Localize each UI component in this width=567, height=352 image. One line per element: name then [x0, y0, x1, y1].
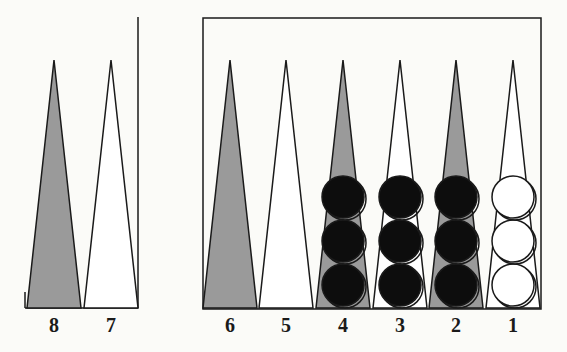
point-label: 2 [441, 314, 471, 337]
point-label: 6 [215, 314, 245, 337]
point-5 [259, 60, 313, 308]
point-8 [27, 60, 81, 308]
point-7 [84, 60, 138, 308]
point-6 [203, 60, 257, 308]
point-label: 3 [385, 314, 415, 337]
point-label: 4 [328, 314, 358, 337]
point-label: 8 [39, 314, 69, 337]
backgammon-board-diagram [0, 0, 567, 352]
point-label: 1 [498, 314, 528, 337]
point-label: 7 [96, 314, 126, 337]
point-label: 5 [271, 314, 301, 337]
